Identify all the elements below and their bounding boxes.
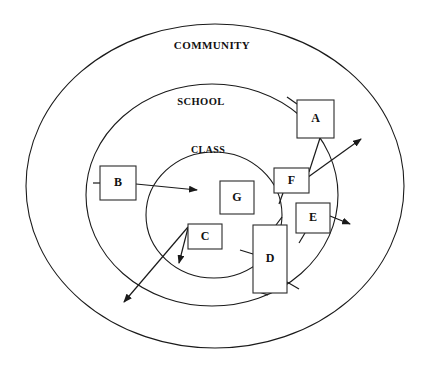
- node-f[interactable]: F: [274, 168, 309, 193]
- connector-e-bottom-tail: [299, 233, 305, 243]
- node-label-a: A: [311, 111, 320, 125]
- connector-d-left-tail: [240, 250, 253, 254]
- node-d[interactable]: D: [253, 225, 287, 293]
- ring-group: [26, 24, 404, 348]
- connector-a-top-tail: [287, 97, 297, 104]
- node-group: ABCDEFG: [100, 100, 334, 293]
- node-label-c: C: [201, 229, 210, 243]
- node-label-e: E: [309, 210, 317, 224]
- node-c[interactable]: C: [188, 224, 222, 249]
- ring-label-group: COMMUNITY SCHOOL CLASS: [174, 39, 250, 155]
- node-b[interactable]: B: [100, 166, 136, 200]
- node-label-f: F: [288, 173, 295, 187]
- ring-outline-community: [26, 24, 404, 348]
- ring-label-class: CLASS: [191, 144, 225, 155]
- node-label-d: D: [266, 251, 275, 265]
- diagram-root: COMMUNITY SCHOOL CLASS ABCDEFG: [0, 0, 424, 374]
- connector-a-to-f: [309, 138, 320, 172]
- node-label-b: B: [114, 175, 122, 189]
- node-label-g: G: [232, 190, 241, 204]
- connector-c-long-outward: [124, 227, 188, 302]
- node-a[interactable]: A: [297, 100, 334, 138]
- ring-label-school: SCHOOL: [177, 96, 224, 107]
- connector-b-to-g: [136, 184, 197, 190]
- ring-label-community: COMMUNITY: [174, 39, 250, 51]
- connector-c-short-outward: [179, 228, 188, 263]
- node-g[interactable]: G: [220, 181, 254, 214]
- nested-systems-diagram: COMMUNITY SCHOOL CLASS ABCDEFG: [0, 0, 424, 374]
- node-e[interactable]: E: [296, 203, 330, 233]
- connector-d-bottom-tail: [287, 282, 299, 289]
- connector-e-outward: [330, 216, 350, 224]
